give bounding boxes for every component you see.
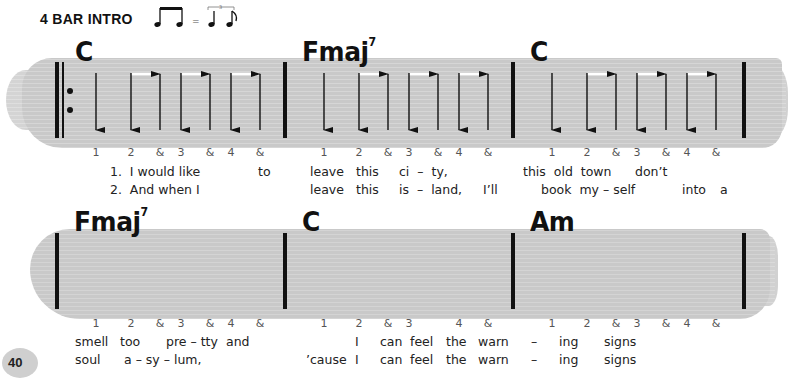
lyric-word: warn xyxy=(478,334,509,349)
beat-count: 4 xyxy=(456,317,463,330)
beat-count: 1 xyxy=(93,317,100,330)
lyric-word: warn xyxy=(478,352,509,367)
beat-count: 1 xyxy=(93,146,100,159)
lyric-word: signs xyxy=(604,334,636,349)
beat-count: & xyxy=(256,317,265,330)
beat-count: & xyxy=(206,146,215,159)
beat-count: & xyxy=(384,317,393,330)
beat-count: & xyxy=(434,146,443,159)
lyric-word: ci – ty, xyxy=(399,164,448,179)
lyric-word: is – land, xyxy=(399,182,462,197)
lyric-word: soul xyxy=(75,352,101,367)
barline xyxy=(283,233,287,309)
lyric-word: into xyxy=(682,182,706,197)
beat-count: 3 xyxy=(406,146,413,159)
lyric-word: don’t xyxy=(635,164,667,179)
lyric-word: the xyxy=(446,334,467,349)
beat-count: & xyxy=(612,146,621,159)
page-number: 40 xyxy=(8,355,22,370)
lyric-word: – xyxy=(531,334,537,349)
lyric-word: signs xyxy=(604,352,636,367)
lyric-word: the xyxy=(446,352,467,367)
lyric-word: feel xyxy=(410,352,433,367)
lyric-word: to xyxy=(258,164,271,179)
lyric-word: this xyxy=(356,182,379,197)
beat-count: 1 xyxy=(321,146,328,159)
lyric-word: I xyxy=(355,352,359,367)
beat-count: 1 xyxy=(321,317,328,330)
lyric-word: ing xyxy=(559,352,578,367)
lyric-word: I’ll xyxy=(483,182,498,197)
beat-count: 1 xyxy=(549,317,556,330)
beat-count: 2 xyxy=(356,317,363,330)
lyric-word: this xyxy=(356,164,379,179)
beat-count: 1 xyxy=(549,146,556,159)
lyric-word: 2. And when I xyxy=(110,182,200,197)
lyric-word: can xyxy=(380,352,402,367)
beat-count: 2 xyxy=(584,146,591,159)
beat-count: 4 xyxy=(228,317,235,330)
lyric-word: a xyxy=(720,182,728,197)
lyric-word: pre – tty xyxy=(166,334,218,349)
beat-count: 3 xyxy=(178,317,185,330)
beat-count: 3 xyxy=(634,146,641,159)
lyric-word: ing xyxy=(559,334,578,349)
beat-count: & xyxy=(712,146,721,159)
lyric-word: 1. I would like xyxy=(110,164,200,179)
beat-count: 3 xyxy=(406,317,413,330)
beat-count: 2 xyxy=(584,317,591,330)
beat-count: & xyxy=(484,317,493,330)
beat-count: & xyxy=(662,146,671,159)
lyric-word: feel xyxy=(410,334,433,349)
lyric-word: can xyxy=(380,334,402,349)
beat-count: & xyxy=(256,146,265,159)
beat-count: & xyxy=(712,317,721,330)
lyric-word: leave xyxy=(310,182,344,197)
lyric-word: smell xyxy=(75,334,108,349)
chord-label: C xyxy=(302,207,320,237)
beat-count: & xyxy=(206,317,215,330)
beat-count: 3 xyxy=(178,146,185,159)
lyric-word: book my – self xyxy=(541,182,635,197)
chord-label: Am xyxy=(530,207,574,237)
beat-count: 2 xyxy=(128,317,135,330)
beat-count: 4 xyxy=(228,146,235,159)
beat-count: & xyxy=(484,146,493,159)
beat-count: 2 xyxy=(356,146,363,159)
beat-count: & xyxy=(662,317,671,330)
lyric-word: ’cause xyxy=(306,352,347,367)
barline-end xyxy=(742,233,746,309)
beat-count: 4 xyxy=(684,317,691,330)
beat-count: & xyxy=(384,146,393,159)
chord-label: Fmaj7 xyxy=(74,207,148,237)
beat-count: 2 xyxy=(128,146,135,159)
beat-count: 4 xyxy=(456,146,463,159)
lyric-word: this old town xyxy=(523,164,611,179)
lyric-word: leave xyxy=(310,164,344,179)
lyric-word: I xyxy=(355,334,359,349)
lyric-word: and xyxy=(226,334,250,349)
beat-count: 3 xyxy=(634,317,641,330)
lyric-word: too xyxy=(120,334,140,349)
barline xyxy=(55,233,59,309)
beat-count: & xyxy=(612,317,621,330)
beat-count: 4 xyxy=(684,146,691,159)
beat-count: & xyxy=(156,146,165,159)
lyric-word: a – sy – lum, xyxy=(124,352,202,367)
lyric-word: – xyxy=(531,352,537,367)
barline xyxy=(511,233,515,309)
beat-count: & xyxy=(156,317,165,330)
brush-texture xyxy=(30,227,775,321)
